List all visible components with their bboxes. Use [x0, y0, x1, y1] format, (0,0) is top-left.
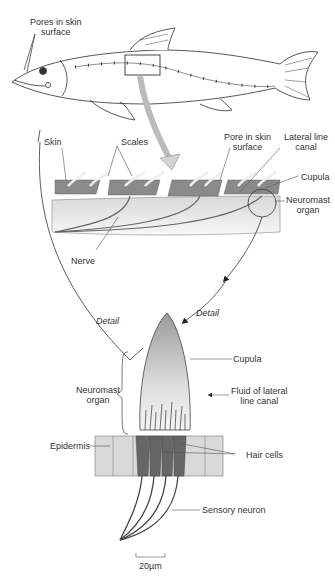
label-neuromast-detail-line2: organ [76, 395, 120, 405]
label-epidermis: Epidermis [50, 441, 90, 451]
label-fluid: Fluid of lateral line canal [231, 386, 288, 406]
label-pores-line1: Pores in skin [30, 17, 82, 27]
label-detail-left: Detail [96, 316, 119, 326]
label-pore-line2: surface [224, 142, 271, 152]
label-cupula-detail: Cupula [233, 354, 262, 364]
fish-illustration [12, 28, 318, 120]
label-hair-cells: Hair cells [246, 450, 283, 460]
label-fluid-line1: Fluid of lateral [231, 386, 288, 396]
label-detail-right: Detail [196, 308, 219, 318]
label-sensory-neuron: Sensory neuron [202, 505, 266, 515]
label-scale-bar: 20µm [139, 561, 162, 571]
pores-leader [24, 34, 35, 72]
label-skin: Skin [44, 137, 62, 147]
label-neuromast-section: Neuromast organ [286, 195, 330, 215]
label-neuromast-detail: Neuromast organ [76, 385, 120, 405]
label-pore-in-skin: Pore in skin surface [224, 132, 271, 152]
label-scales: Scales [121, 137, 148, 147]
label-lateral-line-canal: Lateral line canal [284, 132, 328, 152]
label-neuromast-section-line2: organ [286, 205, 330, 215]
label-pores: Pores in skin surface [30, 17, 82, 37]
label-neuromast-section-line1: Neuromast [286, 195, 330, 205]
label-pore-line1: Pore in skin [224, 132, 271, 142]
label-pores-line2: surface [30, 27, 82, 37]
lateral-line-diagram [0, 0, 335, 581]
detail-arrow-left [39, 142, 143, 360]
label-nerve: Nerve [71, 256, 95, 266]
label-canal-line2: canal [284, 142, 328, 152]
label-fluid-line2: line canal [231, 396, 288, 406]
label-neuromast-detail-line1: Neuromast [76, 385, 120, 395]
label-cupula-section: Cupula [301, 172, 330, 182]
label-canal-line1: Lateral line [284, 132, 328, 142]
